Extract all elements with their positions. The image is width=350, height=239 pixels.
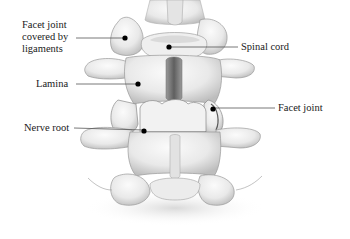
nerve-root-opening	[140, 100, 206, 136]
label-line: covered by	[22, 31, 92, 43]
sacral-notch	[150, 178, 200, 200]
spine-diagram: Facet joint covered by ligaments Spinal …	[0, 0, 350, 239]
spinous-process-low	[170, 135, 180, 180]
label-line: ligaments	[22, 43, 92, 55]
dot-nerve-root	[141, 128, 146, 133]
spinous-process-mid	[166, 57, 182, 101]
label-facet-joint: Facet joint	[278, 102, 323, 114]
label-lamina: Lamina	[36, 78, 68, 90]
dot-facet-joint-covered	[122, 35, 127, 40]
left-transverse-process-low	[81, 127, 134, 149]
dot-lamina	[135, 81, 140, 86]
right-transverse-process-low	[216, 128, 260, 148]
label-nerve-root: Nerve root	[24, 122, 69, 134]
left-sacral-edge	[88, 178, 112, 190]
right-sacral-edge	[236, 176, 262, 190]
label-spinal-cord: Spinal cord	[241, 41, 289, 53]
upper-spinous-process	[167, 0, 183, 25]
left-inferior-lobe	[111, 174, 150, 205]
label-facet-joint-covered: Facet joint covered by ligaments	[22, 19, 92, 55]
dot-facet-joint	[210, 106, 215, 111]
dot-spinal-cord	[166, 44, 171, 49]
label-line: Facet joint	[22, 19, 92, 31]
right-inferior-lobe	[198, 175, 234, 205]
